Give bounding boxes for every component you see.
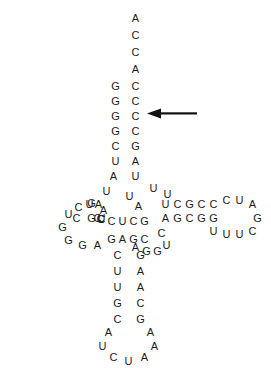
nucleotide-base: C [130,96,141,107]
nucleotide-base: U [124,191,135,202]
nucleotide-base: U [221,229,232,240]
nucleotide-base: C [135,298,146,309]
nucleotide-base: C [130,30,141,41]
nucleotide-base: G [208,213,219,224]
nucleotide-base: G [57,222,68,233]
nucleotide-base: C [130,111,141,122]
nucleotide-base: C [128,216,139,227]
nucleotide-base: A [108,171,119,182]
nucleotide-base: C [172,199,183,210]
nucleotide-base: C [130,47,141,58]
nucleotide-base: C [112,314,123,325]
nucleotide-base: A [139,352,150,363]
nucleotide-base: U [97,341,108,352]
nucleotide-base: G [135,250,146,261]
nucleotide-base: G [110,81,121,92]
nucleotide-base: A [145,327,156,338]
nucleotide-base: U [101,186,112,197]
nucleotide-base: A [149,341,160,352]
nucleotide-base: G [196,213,207,224]
nucleotide-base: G [152,246,163,257]
nucleotide-base: C [208,199,219,210]
nucleotide-base: C [247,226,258,237]
nucleotide-base: C [196,199,207,210]
nucleotide-base: C [73,202,84,213]
nucleotide-base: U [130,171,141,182]
nucleotide-base: C [156,228,167,239]
nucleotide-base: A [135,282,146,293]
nucleotide-base: G [252,213,263,224]
nucleotide-base: G [110,96,121,107]
nucleotide-base: C [110,141,121,152]
nucleotide-base: U [160,199,171,210]
nucleotide-base: G [130,141,141,152]
nucleotide-base: C [221,195,232,206]
nucleotide-base: U [117,216,128,227]
nucleotide-base: A [247,199,258,210]
nucleotide-base: C [108,352,119,363]
nucleotide-base: U [112,282,123,293]
nucleotide-base: G [106,234,117,245]
nucleotide-base: C [184,213,195,224]
nucleotide-base: A [92,240,103,251]
nucleotide-base: G [112,298,123,309]
nucleotide-base: U [234,195,245,206]
nucleotide-base: U [208,226,219,237]
nucleotide-base: A [117,234,128,245]
nucleotide-base: G [172,213,183,224]
nucleotide-base: A [130,64,141,75]
nucleotide-base: U [112,266,123,277]
nucleotide-base: U [110,156,121,167]
nucleotide-base: A [133,201,144,212]
nucleotide-base: A [130,13,141,24]
nucleotide-base: A [160,213,171,224]
trna-cloverleaf-diagram: ACCACCCCGAUGGGGCUAUAGCUUCCCUCGAGGGACUCGG… [0,0,271,368]
nucleotide-base: C [130,81,141,92]
nucleotide-base: A [135,266,146,277]
nucleotide-base: G [86,198,97,209]
nucleotide-base: G [110,126,121,137]
nucleotide-base: C [130,126,141,137]
nucleotide-base: G [77,240,88,251]
nucleotide-base: U [234,229,245,240]
nucleotide-base: U [148,183,159,194]
nucleotide-base: G [63,235,74,246]
nucleotide-base: G [184,199,195,210]
left-pointing-arrow-icon [147,108,197,119]
nucleotide-base: A [103,327,114,338]
nucleotide-base: U [123,356,134,367]
nucleotide-base: A [130,156,141,167]
nucleotide-base: G [110,111,121,122]
nucleotide-base: G [135,314,146,325]
nucleotide-base: C [106,216,117,227]
nucleotide-base: C [112,250,123,261]
nucleotide-base: G [139,216,150,227]
